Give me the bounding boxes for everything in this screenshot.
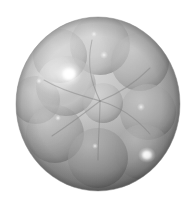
render-canvas: [0, 0, 194, 203]
sphere-cluster-illustration: [0, 0, 194, 203]
outer-sphere-rim-shading: [16, 17, 180, 191]
